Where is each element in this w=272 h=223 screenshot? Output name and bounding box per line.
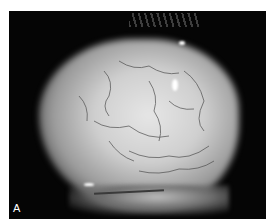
- conjunctiva-photo: A: [9, 11, 266, 219]
- blood-vessels: [9, 11, 266, 219]
- panel-label: A: [13, 202, 20, 214]
